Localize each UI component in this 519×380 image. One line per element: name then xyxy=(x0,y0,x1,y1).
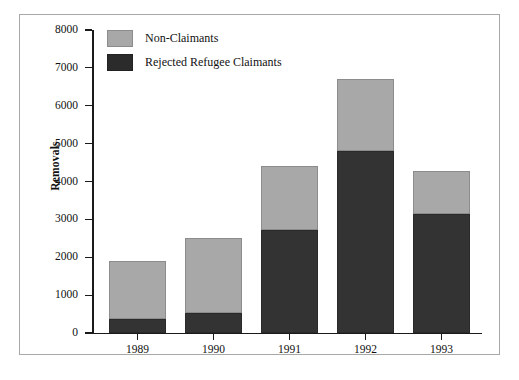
x-axis-tick xyxy=(441,333,442,340)
y-axis-tick xyxy=(85,67,92,68)
x-axis-tick xyxy=(289,333,290,340)
y-axis-tick xyxy=(85,105,92,106)
bar-segment-non-claimants xyxy=(185,238,242,313)
y-axis-tick xyxy=(85,219,92,220)
y-axis-tick-label: 6000 xyxy=(38,100,78,111)
figure: Removals 0100020003000400050006000700080… xyxy=(0,0,519,380)
bar-segment-rejected-refugee-claimants xyxy=(261,230,318,333)
y-axis-tick-label: 3000 xyxy=(38,213,78,224)
x-axis-tick-label: 1989 xyxy=(108,343,168,355)
y-axis-tick-label: 4000 xyxy=(38,176,78,187)
y-axis-tick xyxy=(85,29,92,30)
bar-segment-non-claimants xyxy=(109,261,166,319)
bar-segment-non-claimants xyxy=(261,166,318,230)
legend-swatch-icon xyxy=(107,54,133,71)
bar-segment-non-claimants xyxy=(413,171,470,215)
y-axis-tick-label: 0 xyxy=(38,327,78,338)
x-axis-tick-label: 1992 xyxy=(336,343,396,355)
legend-item-label: Non-Claimants xyxy=(145,31,218,46)
bar-stack xyxy=(185,238,242,333)
y-axis-tick-label: 5000 xyxy=(38,138,78,149)
y-axis-tick-label: 2000 xyxy=(38,251,78,262)
bar-segment-rejected-refugee-claimants xyxy=(413,214,470,333)
x-axis-tick-label: 1990 xyxy=(184,343,244,355)
bar-stack xyxy=(109,261,166,333)
y-axis-tick-label: 1000 xyxy=(38,289,78,300)
x-axis-tick xyxy=(137,333,138,340)
legend-item-label: Rejected Refugee Claimants xyxy=(145,55,282,70)
y-axis-tick-label: 8000 xyxy=(38,24,78,35)
y-axis-tick-label: 7000 xyxy=(38,62,78,73)
y-axis-tick xyxy=(85,143,92,144)
bar-stack xyxy=(261,166,318,333)
y-axis-tick xyxy=(85,181,92,182)
bar-segment-rejected-refugee-claimants xyxy=(109,319,166,333)
y-axis-tick xyxy=(85,257,92,258)
y-axis-tick xyxy=(85,332,92,333)
y-axis-tick xyxy=(85,295,92,296)
bar-stack xyxy=(413,171,470,333)
legend-swatch-icon xyxy=(107,30,133,47)
y-axis-title: Removals xyxy=(49,106,61,226)
x-axis-tick-label: 1991 xyxy=(260,343,320,355)
x-axis-tick xyxy=(365,333,366,340)
bar-segment-rejected-refugee-claimants xyxy=(337,151,394,333)
plot-area xyxy=(93,30,483,333)
bar-stack xyxy=(337,79,394,333)
bar-segment-rejected-refugee-claimants xyxy=(185,313,242,333)
bar-segment-non-claimants xyxy=(337,79,394,151)
x-axis-tick xyxy=(213,333,214,340)
x-axis-tick-label: 1993 xyxy=(412,343,472,355)
